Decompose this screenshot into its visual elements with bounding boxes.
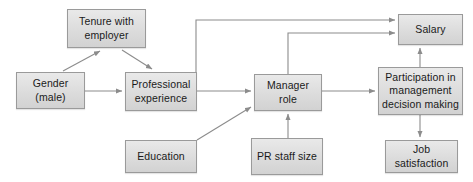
edge-gender-to-tenure xyxy=(63,51,100,71)
node-participation-in-management-decision-making[interactable]: Participation in management decision mak… xyxy=(378,67,463,115)
node-label: Education xyxy=(134,150,188,163)
node-label: Professional experience xyxy=(126,78,196,104)
edge-education-to-manager xyxy=(197,107,251,140)
edge-professional-to-salary xyxy=(196,20,395,72)
node-manager-role[interactable]: Manager role xyxy=(254,74,322,111)
path-diagram: Tenure with employer Gender (male) Profe… xyxy=(0,0,473,182)
node-gender[interactable]: Gender (male) xyxy=(16,72,85,109)
node-label: PR staff size xyxy=(254,150,320,163)
node-professional-experience[interactable]: Professional experience xyxy=(125,72,197,111)
edge-tenure-to-professional xyxy=(122,50,152,69)
node-label: Job satisfaction xyxy=(386,143,457,169)
node-label: Manager role xyxy=(255,79,321,105)
node-label: Participation in management decision mak… xyxy=(379,71,462,110)
node-label: Tenure with employer xyxy=(68,15,145,41)
node-salary[interactable]: Salary xyxy=(398,14,463,45)
node-pr-staff-size[interactable]: PR staff size xyxy=(251,138,323,175)
node-label: Salary xyxy=(412,23,448,36)
node-tenure-with-employer[interactable]: Tenure with employer xyxy=(67,9,146,48)
node-education[interactable]: Education xyxy=(125,140,197,173)
node-job-satisfaction[interactable]: Job satisfaction xyxy=(385,140,458,173)
node-label: Gender (male) xyxy=(17,77,84,103)
